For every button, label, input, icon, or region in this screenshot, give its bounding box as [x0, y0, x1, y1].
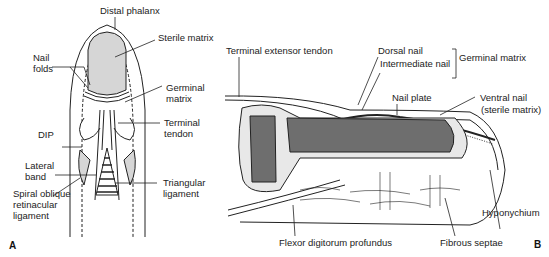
label-nail-folds-line2: folds: [33, 63, 53, 74]
label-ventral-nail-line2: (sterile matrix): [481, 104, 541, 115]
label-lateral-band-line1: Lateral: [25, 160, 54, 171]
label-germinal-matrix-b: Germinal matrix: [459, 52, 526, 63]
label-spiral-line2: retinacular: [13, 199, 57, 210]
label-sterile-matrix: Sterile matrix: [158, 32, 213, 43]
label-spiral-line3: ligament: [13, 210, 49, 221]
label-triangular-line2: ligament: [163, 188, 199, 199]
label-terminal-tendon-line1: Terminal: [164, 117, 200, 128]
finger-sagittal-section: [225, 96, 505, 225]
label-ventral-nail-line1: Ventral nail: [480, 92, 527, 103]
label-dip: DIP: [38, 129, 54, 140]
label-distal-phalanx: Distal phalanx: [100, 5, 160, 16]
label-spiral-line1: Spiral oblique: [13, 188, 71, 199]
label-nail-plate: Nail plate: [392, 92, 432, 103]
label-flexor-digitorum-profundus: Flexor digitorum profundus: [279, 237, 392, 248]
label-triangular-line1: Triangular: [163, 177, 205, 188]
label-intermediate-nail: Intermediate nail: [380, 58, 450, 69]
label-germinal-matrix-line2: matrix: [166, 93, 192, 104]
label-dorsal-nail: Dorsal nail: [378, 45, 423, 56]
label-lateral-band-line2: band: [25, 171, 46, 182]
label-fibrous-septae: Fibrous septae: [440, 237, 503, 248]
panel-letter-a: A: [9, 240, 16, 251]
label-terminal-tendon-line2: tendon: [164, 128, 193, 139]
finger-dorsal-view: [70, 25, 145, 237]
label-germinal-matrix-line1: Germinal: [166, 82, 205, 93]
label-nail-folds-line1: Nail: [33, 52, 49, 63]
anatomy-illustration: [0, 0, 549, 257]
label-hyponychium: Hyponychium: [482, 207, 540, 218]
panel-letter-b: B: [534, 239, 541, 250]
label-terminal-extensor-tendon: Terminal extensor tendon: [226, 45, 333, 56]
